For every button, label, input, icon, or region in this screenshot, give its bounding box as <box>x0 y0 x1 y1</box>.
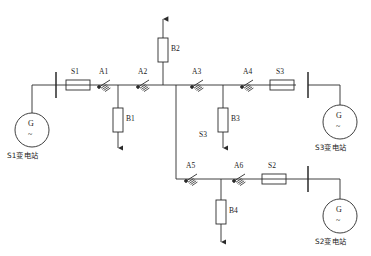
generator-s1-waveform: ~ <box>28 131 32 139</box>
arrester-a1 <box>98 80 111 92</box>
label-arrester-a6: A6 <box>234 162 243 170</box>
label-load-b4: B4 <box>229 207 238 215</box>
arrester-a6 <box>233 174 246 186</box>
generator-s3-waveform: ~ <box>336 123 340 131</box>
generator-s1-symbol: G <box>28 120 34 128</box>
label-arrester-a2: A2 <box>138 68 147 76</box>
load-branch-b4 <box>216 179 226 242</box>
arrester-a5 <box>185 174 198 186</box>
label-arrester-a5: A5 <box>186 162 195 170</box>
s3-generator-lead <box>308 85 340 105</box>
label-load-b3: B3 <box>231 115 240 123</box>
label-arrester-a1: A1 <box>99 68 108 76</box>
arrester-a3 <box>191 80 204 92</box>
load-branch-b1 <box>113 85 123 148</box>
schematic-canvas <box>0 0 371 256</box>
generator-s2-waveform: ~ <box>336 217 340 225</box>
label-annotation-s3-tap: S3 <box>199 131 207 139</box>
arrester-a4 <box>241 80 254 92</box>
load-branch-b3 <box>218 85 228 148</box>
load-branch-b2 <box>158 19 168 85</box>
generator-s3-symbol: G <box>336 112 342 120</box>
label-load-b1: B1 <box>126 115 135 123</box>
arrester-a2 <box>137 80 150 92</box>
label-substation-s3: S3变电站 <box>315 144 346 151</box>
label-substation-s1: S1变电站 <box>7 152 38 159</box>
label-arrester-a4: A4 <box>243 68 252 76</box>
label-switch-s3: S3 <box>276 68 284 76</box>
generator-s2-symbol: G <box>336 206 342 214</box>
label-arrester-a3: A3 <box>192 68 201 76</box>
label-switch-s1: S1 <box>71 68 79 76</box>
s2-generator-lead <box>296 179 340 199</box>
label-switch-s2: S2 <box>268 162 276 170</box>
label-load-b2: B2 <box>171 45 180 53</box>
label-substation-s2: S2变电站 <box>315 238 346 245</box>
single-line-diagram: S1 A1 A2 A3 A4 S3 A5 A6 S2 B1 B2 B3 B4 S… <box>0 0 371 256</box>
